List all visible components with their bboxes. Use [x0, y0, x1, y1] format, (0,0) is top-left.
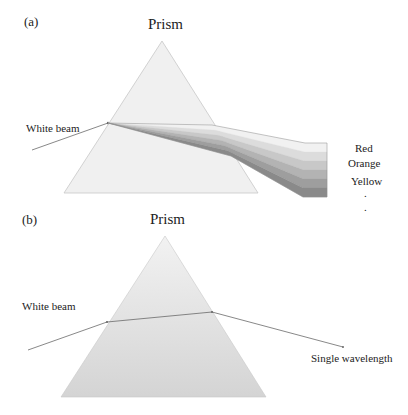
spectrum-label-orange: Orange — [348, 157, 380, 169]
panel-label-a: (a) — [24, 14, 38, 29]
beam-end-point-b — [342, 346, 344, 348]
spectrum-label-yellow: Yellow — [351, 175, 382, 187]
spectrum-continuation-dot-1: . — [364, 187, 367, 199]
entry-point-b — [106, 321, 108, 323]
panel-label-b: (b) — [22, 212, 37, 227]
prism-title-b: Prism — [150, 211, 185, 227]
spectrum-label-red: Red — [355, 142, 373, 154]
panel-a: (a) Prism White beam Red Orange Yellow .… — [24, 14, 382, 213]
white-beam-label-a: White beam — [26, 122, 80, 134]
exit-point-b — [211, 311, 213, 313]
prism-title-a: Prism — [148, 16, 183, 32]
single-wavelength-label: Single wavelength — [311, 352, 393, 364]
prism-dispersion-figure: (a) Prism White beam Red Orange Yellow .… — [0, 0, 408, 415]
spectrum-continuation-dot-2: . — [364, 201, 367, 213]
white-beam-label-b: White beam — [22, 300, 76, 312]
prism-a — [64, 41, 258, 193]
panel-b: (b) Prism White beam Single wavelength — [22, 211, 393, 397]
